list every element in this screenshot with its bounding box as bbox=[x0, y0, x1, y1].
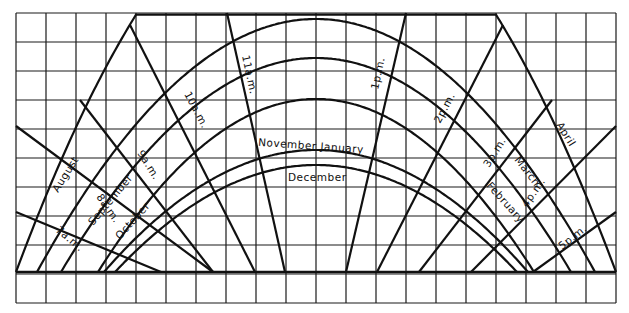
label-5pm: 5p.m. bbox=[556, 222, 589, 252]
labels: August September October November Januar… bbox=[50, 54, 590, 254]
label-april: April bbox=[554, 120, 578, 149]
label-4pm: 4p.m. bbox=[519, 175, 548, 209]
label-november-january: November January bbox=[258, 136, 364, 155]
label-10am: 10a.m. bbox=[182, 89, 211, 130]
sun-path-diagram: August September October November Januar… bbox=[0, 0, 629, 313]
label-december: December bbox=[288, 171, 347, 183]
hour-line-2pm bbox=[377, 25, 503, 272]
